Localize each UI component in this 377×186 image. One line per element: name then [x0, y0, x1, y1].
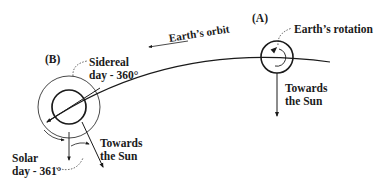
label-earth-rotation: Earth’s rotation — [294, 23, 373, 35]
sidereal-leader-line — [73, 61, 87, 76]
label-a-sun-2: the Sun — [285, 95, 322, 107]
label-solar-2: day - 361° — [12, 165, 61, 177]
label-solar-1: Solar — [12, 152, 38, 164]
label-position-a: (A) — [252, 12, 268, 24]
sidereal-arc-arrow — [44, 130, 64, 140]
orbit-radial-arrow — [47, 88, 100, 122]
label-a-sun-1: Towards — [285, 82, 327, 94]
sidereal-solar-day-diagram: (B) Sidereal day - 360° Solar day - 361°… — [0, 0, 377, 186]
earth-b-inner-circle — [52, 90, 86, 124]
label-position-b: (B) — [45, 53, 60, 65]
rotation-arrowhead-icon — [271, 47, 279, 54]
label-sidereal-2: day - 360° — [89, 69, 138, 81]
solar-arc-arrow — [71, 143, 89, 146]
label-b-sun-1: Towards — [100, 137, 142, 149]
label-sidereal-1: Sidereal — [89, 56, 129, 68]
sidereal-ring — [38, 76, 100, 138]
label-b-sun-2: the Sun — [100, 150, 137, 162]
